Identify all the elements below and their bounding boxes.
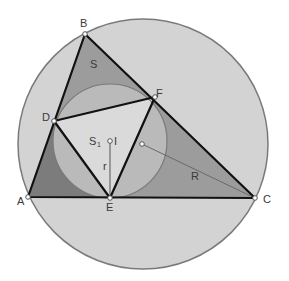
point-d <box>52 119 57 124</box>
label-inradius-r: r <box>103 160 107 172</box>
label-circumradius-R: R <box>191 170 199 182</box>
geometry-diagram: B A C D E F I S S 1 r R <box>0 0 289 281</box>
point-c <box>253 196 258 201</box>
point-i-incenter <box>108 139 113 144</box>
label-region-s1-subscript: 1 <box>97 141 101 148</box>
point-a <box>26 195 31 200</box>
label-a: A <box>17 195 25 207</box>
label-f: F <box>156 87 163 99</box>
label-c: C <box>263 193 271 205</box>
label-b: B <box>80 17 87 29</box>
label-region-s1: S <box>89 135 96 147</box>
label-d: D <box>42 111 50 123</box>
label-i: I <box>114 135 117 147</box>
label-region-s: S <box>90 58 97 70</box>
point-e <box>108 196 113 201</box>
label-e: E <box>106 201 113 213</box>
point-b <box>83 32 88 37</box>
point-o-circumcenter <box>140 142 145 147</box>
